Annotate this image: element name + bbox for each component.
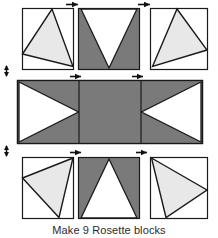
middle-left-unit — [18, 81, 80, 144]
bottom-row-group — [23, 158, 208, 219]
seam-arrow-left-upper — [4, 65, 9, 77]
seam-arrow-bottom-right — [136, 150, 147, 155]
seam-arrow-middle-right — [132, 74, 143, 79]
block-assembly-illustration — [0, 0, 218, 238]
figure-caption: Make 9 Rosette blocks — [0, 224, 218, 237]
seam-arrow-middle-left — [70, 74, 81, 79]
bottom-center-unit — [79, 158, 140, 219]
top-left-unit — [23, 9, 74, 70]
middle-center-dark-square — [79, 81, 141, 144]
middle-center-unit — [79, 81, 141, 144]
middle-row-group — [18, 81, 203, 144]
bottom-left-unit — [23, 158, 74, 219]
middle-right-unit — [141, 81, 203, 144]
top-row-group — [23, 9, 208, 70]
top-center-unit — [79, 9, 140, 70]
rosette-block-diagram-figure: Make 9 Rosette blocks — [0, 0, 218, 238]
seam-arrow-top-right — [138, 2, 150, 7]
seam-arrow-bottom-left — [70, 150, 81, 155]
seam-arrow-top-left — [66, 2, 78, 7]
seam-arrow-left-lower — [4, 145, 9, 157]
top-right-unit — [151, 9, 208, 70]
bottom-right-unit — [151, 158, 208, 219]
